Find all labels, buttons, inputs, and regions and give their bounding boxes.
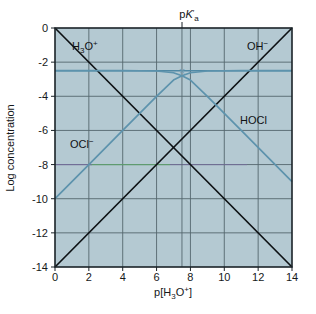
x-axis-title-suffix: ] xyxy=(189,286,192,298)
x-tick-label-14: 14 xyxy=(286,271,298,283)
log-concentration-diagram: × 02468101214 0-2-4-6-8-10-12-14 p[H3O+]… xyxy=(0,0,316,314)
series-label-hypochlorous-acid: HOCl xyxy=(240,114,267,126)
y-axis-title: Log concentration xyxy=(4,104,16,191)
x-tick-label-0: 0 xyxy=(52,271,58,283)
x-tick-label-10: 10 xyxy=(218,271,230,283)
hydroxide-sup: − xyxy=(264,39,269,48)
y-tick-label-neg4: -4 xyxy=(38,90,48,102)
x-axis-title-prefix: p[H xyxy=(154,286,171,298)
hydronium-sup: + xyxy=(93,39,98,48)
y-tick-label-neg14: -14 xyxy=(32,261,48,273)
y-tick-label-neg6: -6 xyxy=(38,124,48,136)
y-tick-label-0: 0 xyxy=(42,22,48,34)
y-tick-label-neg8: -8 xyxy=(38,159,48,171)
pka-sub: a xyxy=(194,14,199,23)
chart-markers: × xyxy=(179,65,185,77)
hydroxide-main: OH xyxy=(247,40,264,52)
x-tick-label-4: 4 xyxy=(120,271,126,283)
x-tick-label-8: 8 xyxy=(187,271,193,283)
y-tick-label-neg10: -10 xyxy=(32,193,48,205)
hypochlorite-sup: − xyxy=(89,137,94,146)
x-tick-label-6: 6 xyxy=(154,271,160,283)
x-tick-label-2: 2 xyxy=(86,271,92,283)
y-tick-label-neg2: -2 xyxy=(38,56,48,68)
x-tick-label-12: 12 xyxy=(252,271,264,283)
hypochlorite-main: OCl xyxy=(70,138,89,150)
hydronium-main: H xyxy=(72,40,80,52)
y-tick-label-neg12: -12 xyxy=(32,227,48,239)
pka-intersection-marker: × xyxy=(179,65,185,77)
